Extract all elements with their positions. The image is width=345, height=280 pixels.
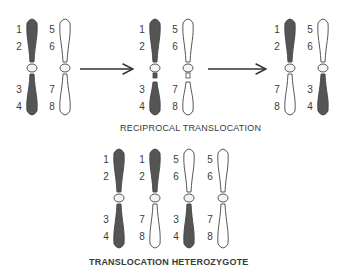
lower-arm [27, 74, 37, 115]
gene-label: 2 [139, 171, 145, 182]
gene-label: 1 [274, 24, 280, 35]
gene-label: 6 [172, 41, 178, 52]
upper-arm [150, 19, 160, 62]
chromosome: 5678 [172, 19, 193, 115]
centromere [150, 194, 160, 202]
gene-label: 8 [49, 101, 55, 112]
chromosome: 5678 [207, 149, 228, 248]
lower-arm [318, 74, 328, 115]
chromosome: 1278 [274, 19, 295, 115]
centromere [285, 64, 295, 72]
gene-label: 1 [139, 24, 145, 35]
gene-label: 7 [49, 84, 55, 95]
gene-label: 1 [139, 154, 145, 165]
gene-label: 4 [307, 101, 313, 112]
gene-label: 6 [49, 41, 55, 52]
gene-label: 5 [172, 24, 178, 35]
gene-label: 2 [139, 41, 145, 52]
gene-label: 3 [139, 84, 145, 95]
upper-arm [218, 149, 228, 192]
chromosome: 1234 [16, 19, 37, 115]
gene-label: 7 [139, 214, 145, 225]
translocation-diagram: 1234567812345678127856341234127856345678 [0, 0, 345, 280]
reciprocal-translocation-caption: RECIPROCAL TRANSLOCATION [120, 123, 261, 133]
lower-arm [285, 74, 295, 115]
gene-label: 8 [207, 231, 213, 242]
upper-arm [150, 149, 160, 192]
break-stub [186, 73, 190, 78]
gene-label: 7 [172, 84, 178, 95]
lower-arm [114, 204, 124, 248]
centromere [60, 64, 70, 72]
upper-arm [318, 19, 328, 62]
translocation-heterozygote-caption: TRANSLOCATION HETEROZYGOTE [89, 257, 249, 267]
chromosome: 5678 [49, 19, 70, 115]
lower-arm [218, 204, 228, 248]
gene-label: 2 [274, 41, 280, 52]
gene-label: 5 [49, 24, 55, 35]
gene-label: 5 [307, 24, 313, 35]
gene-label: 1 [16, 24, 22, 35]
gene-label: 3 [103, 214, 109, 225]
chromosome: 1234 [139, 19, 160, 115]
lower-arm [183, 82, 193, 115]
lower-arm [150, 204, 160, 248]
chromosome: 5634 [173, 149, 194, 248]
centromere [318, 64, 328, 72]
centromere [114, 194, 124, 202]
break-stub [153, 73, 157, 78]
upper-arm [114, 149, 124, 192]
centromere [218, 194, 228, 202]
gene-label: 3 [173, 214, 179, 225]
gene-label: 8 [274, 101, 280, 112]
centromere [27, 64, 37, 72]
upper-arm [184, 149, 194, 192]
gene-label: 6 [173, 171, 179, 182]
gene-label: 6 [307, 41, 313, 52]
upper-arm [60, 19, 70, 62]
gene-label: 3 [307, 84, 313, 95]
gene-label: 4 [103, 231, 109, 242]
gene-label: 7 [274, 84, 280, 95]
gene-label: 2 [16, 41, 22, 52]
upper-arm [27, 19, 37, 62]
lower-arm [184, 204, 194, 248]
gene-label: 4 [16, 101, 22, 112]
upper-arm [183, 19, 193, 62]
centromere [184, 194, 194, 202]
gene-label: 4 [139, 101, 145, 112]
gene-label: 1 [103, 154, 109, 165]
centromere [183, 64, 193, 72]
gene-label: 6 [207, 171, 213, 182]
gene-label: 8 [172, 101, 178, 112]
upper-arm [285, 19, 295, 62]
gene-label: 3 [16, 84, 22, 95]
gene-label: 5 [207, 154, 213, 165]
gene-label: 5 [173, 154, 179, 165]
chromosome: 1234 [103, 149, 124, 248]
chromosome: 5634 [307, 19, 328, 115]
centromere [150, 64, 160, 72]
gene-label: 2 [103, 171, 109, 182]
gene-label: 8 [139, 231, 145, 242]
gene-label: 4 [173, 231, 179, 242]
chromosome: 1278 [139, 149, 160, 248]
lower-arm [60, 74, 70, 115]
lower-arm [150, 82, 160, 115]
gene-label: 7 [207, 214, 213, 225]
